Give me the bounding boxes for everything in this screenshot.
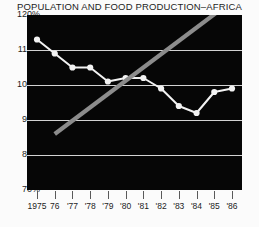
x-axis-tick-mark (72, 191, 73, 199)
x-axis-tick-label: '79 (102, 201, 113, 211)
data-point-marker (105, 78, 111, 84)
plot-area (27, 15, 242, 190)
series-line-population (55, 15, 232, 134)
data-point-marker (87, 64, 93, 70)
data-point-marker (34, 36, 40, 42)
x-axis-tick-mark (161, 191, 162, 199)
x-axis-tick-mark (143, 191, 144, 199)
data-series-layer (27, 15, 242, 190)
x-axis-tick-mark (232, 191, 233, 199)
x-axis-tick-label: '81 (138, 201, 149, 211)
x-axis-tick-mark (108, 191, 109, 199)
x-axis-tick-label: '84 (191, 201, 202, 211)
chart-figure: POPULATION AND FOOD PRODUCTION–AFRICA 12… (0, 0, 259, 227)
x-axis-tick-mark (90, 191, 91, 199)
x-axis-tick-mark (37, 191, 38, 199)
x-axis-tick-label: 1975 (28, 201, 47, 211)
x-axis-tick-mark (179, 191, 180, 199)
data-point-marker (69, 64, 75, 70)
x-axis-tick-mark (197, 191, 198, 199)
data-point-marker (229, 85, 235, 91)
data-point-marker (140, 75, 146, 81)
x-axis-tick-label: '85 (209, 201, 220, 211)
data-point-marker (158, 85, 164, 91)
data-point-marker (193, 110, 199, 116)
data-point-marker (211, 89, 217, 95)
data-point-marker (176, 103, 182, 109)
data-point-marker (52, 50, 58, 56)
x-axis-tick-mark (214, 191, 215, 199)
x-axis-tick-label: '80 (120, 201, 131, 211)
x-axis-tick-label: '77 (67, 201, 78, 211)
x-axis-tick-label: '78 (85, 201, 96, 211)
x-axis-tick-mark (126, 191, 127, 199)
x-axis-tick-label: '82 (156, 201, 167, 211)
x-axis-tick-label: 76 (50, 201, 59, 211)
x-axis-tick-mark (55, 191, 56, 199)
x-axis-tick-label: '86 (226, 201, 237, 211)
x-axis-tick-label: '83 (173, 201, 184, 211)
